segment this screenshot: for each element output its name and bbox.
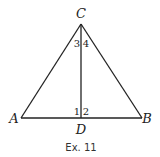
angle-label-4: 4 xyxy=(83,38,89,49)
point-label-c: C xyxy=(76,6,86,21)
triangle-diagram: C A B D 3 4 1 2 Ex. 11 xyxy=(0,0,160,157)
segment-bc xyxy=(81,24,142,118)
point-label-b: B xyxy=(141,111,152,126)
angle-label-2: 2 xyxy=(83,106,89,117)
angle-label-3: 3 xyxy=(74,38,80,49)
point-label-a: A xyxy=(8,111,18,126)
angle-label-1: 1 xyxy=(74,106,80,117)
figure-caption: Ex. 11 xyxy=(65,142,96,153)
point-label-d: D xyxy=(75,122,87,137)
segment-ac xyxy=(21,24,81,118)
